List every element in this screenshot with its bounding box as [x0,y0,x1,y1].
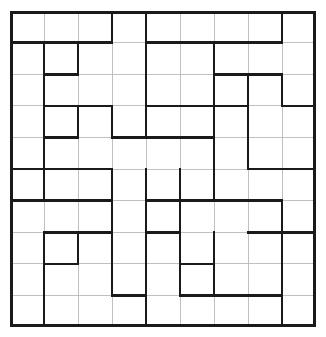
puzzle-grid[interactable] [10,11,316,327]
puzzle-page [0,0,326,337]
grid-canvas[interactable] [10,11,316,327]
